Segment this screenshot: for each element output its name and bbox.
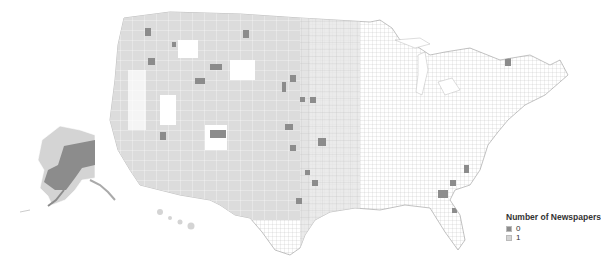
legend-label-1: 1 — [516, 233, 520, 242]
legend-item-1: 1 — [506, 233, 601, 242]
legend-swatch-0 — [506, 226, 512, 232]
legend-label-0: 0 — [516, 224, 520, 233]
hawaii-inset — [157, 209, 195, 230]
legend-swatch-1 — [506, 235, 512, 241]
legend-item-0: 0 — [506, 224, 601, 233]
legend-title: Number of Newspapers — [506, 212, 601, 222]
map-legend: Number of Newspapers 0 1 — [506, 212, 601, 242]
alaska-inset — [20, 126, 115, 212]
